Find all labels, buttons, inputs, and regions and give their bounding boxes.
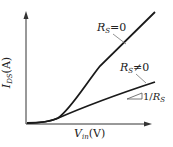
y-axis-arrow-icon	[24, 11, 29, 19]
leader-rs-nonzero	[136, 74, 146, 83]
leader-rs-zero	[113, 34, 126, 44]
label-rs-zero: RS=0	[97, 22, 126, 35]
x-axis-label: Vin(V)	[74, 128, 105, 141]
slope-triangle-icon	[127, 93, 142, 99]
x-axis-arrow-icon	[144, 122, 152, 127]
label-slope: 1/RS	[143, 92, 165, 104]
y-axis-label: IDS(A)	[1, 57, 14, 88]
curve-rs-nonzero	[27, 82, 155, 123]
label-rs-nonzero: RS≠0	[120, 62, 149, 75]
